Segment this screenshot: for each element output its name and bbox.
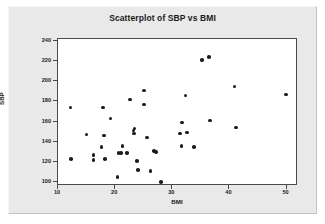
scatterplot-figure: Scatterplot of SBP vs BMI SBP BMI 100120… — [0, 0, 325, 224]
scatter-point — [102, 134, 106, 138]
scatter-point — [180, 121, 184, 125]
x-tick-label: 10 — [45, 189, 69, 195]
scatter-point — [132, 132, 136, 136]
scatter-point — [121, 144, 125, 148]
x-tick-mark — [286, 185, 287, 189]
scatter-point — [185, 131, 189, 135]
plot-area — [57, 38, 297, 185]
scatter-point — [101, 106, 105, 110]
scatter-point — [192, 145, 196, 149]
scatter-point — [135, 159, 139, 163]
x-tick-label: 50 — [274, 189, 298, 195]
scatter-point — [69, 157, 73, 161]
scatter-points — [58, 39, 296, 184]
x-tick-label: 30 — [159, 189, 183, 195]
scatter-point — [142, 89, 146, 93]
scatter-point — [159, 180, 163, 184]
scatter-point — [207, 55, 211, 59]
scatter-point — [119, 151, 123, 155]
scatter-point — [145, 136, 149, 140]
scatter-point — [125, 151, 129, 155]
scatter-point — [100, 145, 104, 149]
scatter-point — [69, 106, 73, 110]
scatter-point — [284, 93, 288, 97]
scatter-point — [85, 133, 89, 137]
x-tick-mark — [228, 185, 229, 189]
scatter-point — [154, 150, 158, 154]
x-tick-label: 40 — [216, 189, 240, 195]
scatter-point — [92, 153, 96, 157]
x-tick-mark — [114, 185, 115, 189]
scatter-point — [178, 132, 182, 136]
scatter-point — [142, 103, 146, 107]
scatter-point — [109, 117, 113, 121]
scatter-point — [149, 169, 153, 173]
scatter-point — [116, 175, 120, 179]
x-tick-mark — [171, 185, 172, 189]
scatter-point — [208, 119, 212, 123]
x-tick-label: 20 — [102, 189, 126, 195]
scatter-point — [184, 94, 188, 98]
scatter-point — [103, 157, 107, 161]
x-tick-mark — [57, 185, 58, 189]
scatter-point — [128, 98, 132, 102]
scatter-point — [133, 127, 137, 131]
scatter-point — [136, 168, 140, 172]
scatter-point — [234, 126, 238, 130]
scatter-point — [180, 144, 184, 148]
scatter-point — [200, 58, 204, 62]
scatter-point — [92, 158, 96, 162]
scatter-point — [233, 85, 237, 89]
